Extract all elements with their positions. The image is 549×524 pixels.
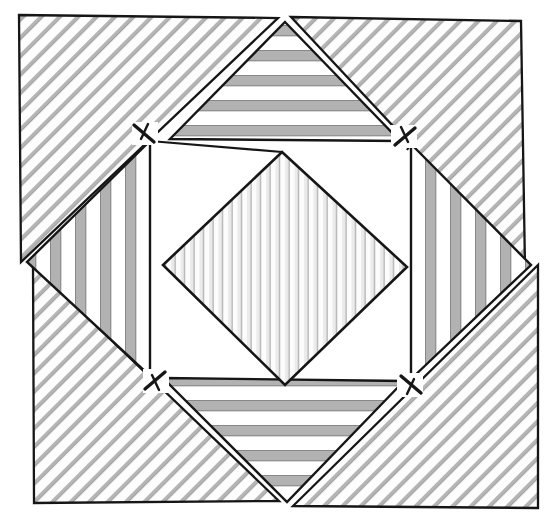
central-diamond-group	[163, 152, 407, 385]
diagram-canvas	[0, 0, 549, 524]
junction-tick-northwest	[132, 122, 158, 145]
junction-tick-northeast	[391, 125, 417, 148]
seam-northwest	[150, 141, 282, 152]
central-diamond	[163, 152, 407, 385]
junction-tick-southwest	[143, 369, 169, 393]
seam-lines-group	[150, 141, 411, 152]
junction-tick-southeast	[397, 373, 423, 397]
geometric-figure	[0, 0, 549, 524]
